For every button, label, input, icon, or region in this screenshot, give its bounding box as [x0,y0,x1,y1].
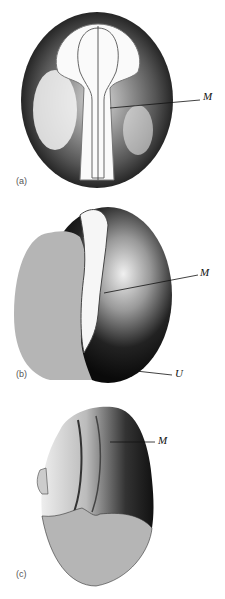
annotation-m-b: M [200,266,209,278]
embryo-illustration-c [0,390,225,599]
embryo-illustration-b [0,195,225,390]
pointer-line-u-b [136,371,172,375]
annotation-m-a: M [203,90,212,102]
panel-c: M (c) [0,390,225,599]
panel-a: M (a) [0,0,225,195]
panel-label-b: (b) [16,369,27,379]
embryo-illustration-a [0,0,225,195]
yolk-region-b [14,231,92,380]
panel-label-c: (c) [16,569,27,579]
yolk-region-c [42,508,152,586]
annotation-u-b: U [175,367,183,379]
panel-b: M U (b) [0,195,225,390]
annotation-m-c: M [158,434,167,446]
panel-label-a: (a) [16,176,27,186]
